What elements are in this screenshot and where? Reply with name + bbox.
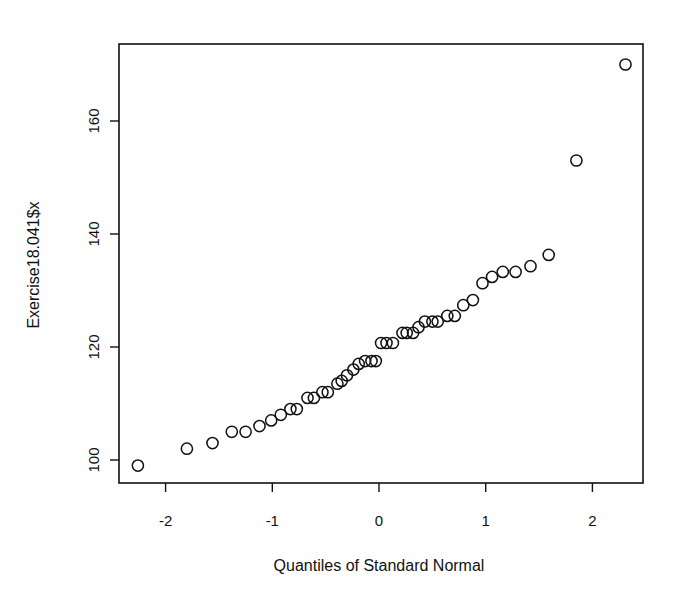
x-tick-label: 1 (482, 512, 490, 529)
x-axis-title: Quantiles of Standard Normal (274, 557, 485, 574)
x-tick-label: -1 (266, 512, 279, 529)
qq-plot: -2-1012 100120140160 Quantiles of Standa… (0, 0, 673, 602)
x-tick-label: -2 (159, 512, 172, 529)
plot-background (0, 0, 673, 602)
y-tick-label: 120 (85, 334, 102, 359)
y-tick-label: 140 (85, 221, 102, 246)
y-tick-label: 160 (85, 108, 102, 133)
y-axis-title: Exercise18.041$x (25, 201, 42, 328)
y-tick-label: 100 (85, 447, 102, 472)
x-tick-label: 2 (588, 512, 596, 529)
x-tick-label: 0 (375, 512, 383, 529)
